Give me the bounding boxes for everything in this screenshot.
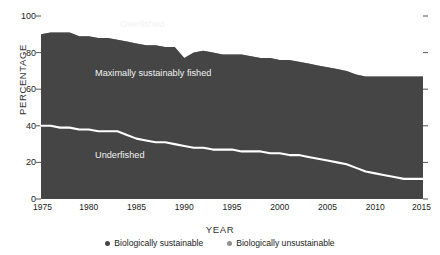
y-axis-tick-labels: 100 80 60 40 20 0 [0, 0, 36, 255]
x-tick-1975: 1975 [33, 202, 52, 212]
y-axis-ticks [36, 16, 41, 199]
x-axis-title: YEAR [0, 224, 440, 235]
legend-item-unsustainable[interactable]: Biologically unsustainable [227, 238, 334, 248]
chart-canvas [0, 0, 440, 255]
band-label-underfished: Underfished [95, 150, 145, 160]
x-tick-1990: 1990 [175, 202, 194, 212]
y-axis-ticks-right [423, 16, 428, 199]
x-tick-1995: 1995 [223, 202, 242, 212]
x-tick-2000: 2000 [270, 202, 289, 212]
y-tick-60: 60 [10, 84, 36, 94]
plot-area [41, 32, 423, 199]
legend-label-sustainable: Biologically sustainable [114, 238, 203, 248]
x-tick-1980: 1980 [79, 202, 98, 212]
legend-item-sustainable[interactable]: Biologically sustainable [105, 238, 203, 248]
x-tick-1985: 1985 [127, 202, 146, 212]
y-tick-80: 80 [10, 48, 36, 58]
y-tick-100: 100 [10, 11, 36, 21]
band-label-overfished: Overfished [120, 19, 164, 29]
legend-dot-sustainable-icon [105, 241, 110, 246]
band-label-maximally-sustainably-fished: Maximally sustainably fished [95, 68, 211, 78]
fish-stocks-area-chart: PERCENTAGE 100 80 60 40 20 0 [0, 0, 440, 255]
x-tick-2005: 2005 [318, 202, 337, 212]
x-tick-2010: 2010 [366, 202, 385, 212]
legend-label-unsustainable: Biologically unsustainable [236, 238, 334, 248]
x-tick-2015: 2015 [412, 202, 431, 212]
y-tick-40: 40 [10, 121, 36, 131]
legend-dot-unsustainable-icon [227, 241, 232, 246]
y-tick-20: 20 [10, 157, 36, 167]
area-biologically-sustainable [41, 32, 423, 199]
chart-legend: Biologically sustainable Biologically un… [0, 238, 440, 248]
